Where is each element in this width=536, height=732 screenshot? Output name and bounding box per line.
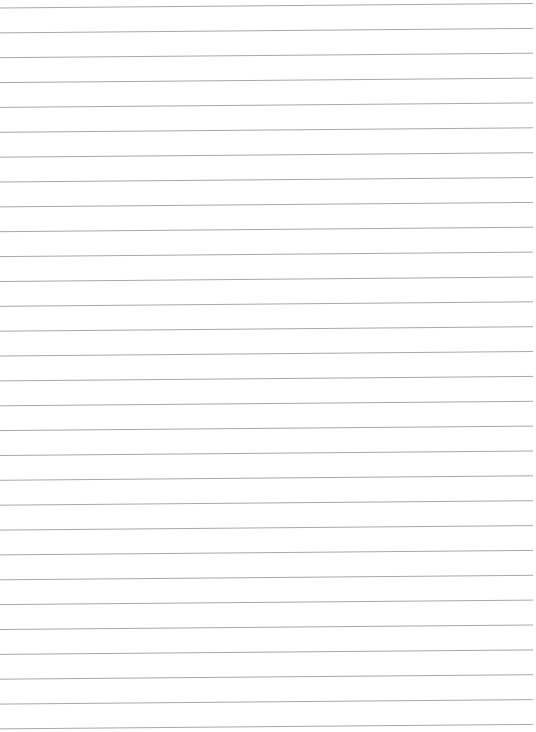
ruled-line bbox=[0, 501, 533, 506]
ruled-line bbox=[0, 401, 533, 406]
ruled-line bbox=[0, 202, 533, 207]
ruled-line bbox=[0, 53, 533, 58]
ruled-line bbox=[0, 625, 533, 630]
ruled-line bbox=[0, 302, 533, 307]
ruled-line bbox=[0, 78, 533, 83]
ruled-line bbox=[0, 4, 533, 9]
ruled-line bbox=[0, 550, 533, 555]
ruled-line bbox=[0, 128, 533, 133]
ruled-line bbox=[0, 277, 533, 282]
ruled-line bbox=[0, 352, 533, 357]
lined-paper bbox=[0, 0, 536, 732]
ruled-line bbox=[0, 451, 533, 456]
ruled-line bbox=[0, 675, 533, 680]
ruled-line bbox=[0, 426, 533, 431]
ruled-line bbox=[0, 153, 533, 158]
ruled-line bbox=[0, 227, 533, 232]
ruled-line bbox=[0, 376, 533, 381]
ruled-line bbox=[0, 600, 533, 605]
ruled-line bbox=[0, 178, 533, 183]
ruled-line bbox=[0, 526, 533, 531]
ruled-line bbox=[0, 28, 533, 33]
ruled-line bbox=[0, 327, 533, 332]
ruled-line bbox=[0, 103, 533, 108]
ruled-lines bbox=[0, 0, 536, 732]
ruled-line bbox=[0, 575, 533, 580]
ruled-line bbox=[0, 700, 533, 705]
ruled-line bbox=[0, 252, 533, 257]
ruled-line bbox=[0, 476, 533, 481]
ruled-line bbox=[0, 724, 533, 729]
ruled-line bbox=[0, 650, 533, 655]
